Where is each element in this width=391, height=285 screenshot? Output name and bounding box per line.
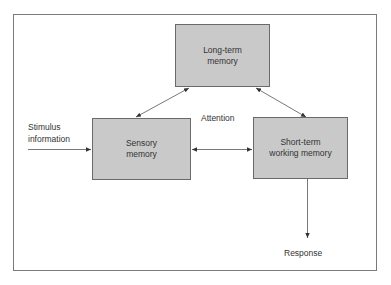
short-term-memory-label-1: Short-term: [269, 137, 331, 148]
short-term-memory-box: Short-term working memory: [253, 117, 348, 179]
sensory-memory-label-2: memory: [126, 149, 157, 160]
attention-label: Attention: [201, 113, 235, 124]
response-label: Response: [284, 248, 322, 259]
short-term-memory-label-2: working memory: [269, 148, 331, 159]
long-term-memory-box: Long-term memory: [175, 24, 270, 87]
sensory-longterm-arrow: [136, 88, 189, 117]
sensory-memory-box: Sensory memory: [92, 118, 191, 180]
shortterm-longterm-arrow: [256, 88, 306, 117]
long-term-memory-label-1: Long-term: [203, 45, 242, 56]
stimulus-label-1: Stimulus: [28, 122, 61, 133]
sensory-memory-label-1: Sensory: [126, 138, 157, 149]
long-term-memory-label-2: memory: [203, 56, 242, 67]
stimulus-label-2: information: [28, 134, 70, 145]
